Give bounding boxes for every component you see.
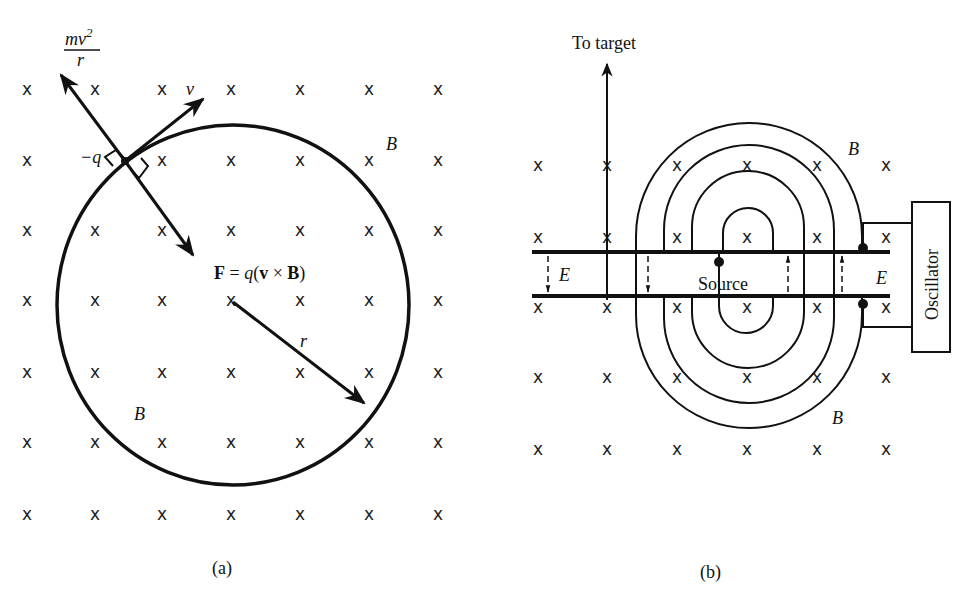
svg-text:x: x bbox=[742, 367, 752, 387]
svg-text:x: x bbox=[295, 79, 305, 99]
panel-b: xxxxxx xxxxxx xxxxxx xxxxxx xxxxxx bbox=[532, 33, 950, 583]
efield-label-right: E bbox=[875, 268, 887, 288]
svg-text:x: x bbox=[433, 504, 443, 524]
svg-text:x: x bbox=[602, 439, 612, 459]
svg-text:x: x bbox=[364, 220, 374, 240]
svg-text:x: x bbox=[157, 432, 167, 452]
svg-text:x: x bbox=[881, 367, 891, 387]
svg-text:x: x bbox=[742, 297, 752, 317]
svg-text:x: x bbox=[433, 150, 443, 170]
svg-text:x: x bbox=[672, 297, 682, 317]
target-label: To target bbox=[572, 33, 636, 53]
svg-text:x: x bbox=[157, 362, 167, 382]
svg-text:x: x bbox=[433, 220, 443, 240]
svg-text:x: x bbox=[295, 432, 305, 452]
svg-text:x: x bbox=[533, 155, 543, 175]
svg-text:x: x bbox=[157, 150, 167, 170]
field-label-b-bottom: B bbox=[134, 404, 145, 424]
lorentz-force-equation: F = q(v × B) bbox=[214, 263, 305, 284]
svg-text:x: x bbox=[672, 439, 682, 459]
svg-text:x: x bbox=[364, 290, 374, 310]
svg-text:x: x bbox=[157, 79, 167, 99]
svg-text:x: x bbox=[22, 220, 32, 240]
svg-text:x: x bbox=[226, 220, 236, 240]
velocity-label: v bbox=[186, 79, 194, 99]
svg-text:x: x bbox=[90, 432, 100, 452]
svg-text:x: x bbox=[364, 362, 374, 382]
svg-text:x: x bbox=[295, 220, 305, 240]
svg-text:x: x bbox=[533, 439, 543, 459]
svg-text:x: x bbox=[533, 367, 543, 387]
svg-text:x: x bbox=[90, 504, 100, 524]
svg-text:x: x bbox=[157, 220, 167, 240]
svg-text:x: x bbox=[364, 504, 374, 524]
svg-text:x: x bbox=[742, 439, 752, 459]
svg-text:x: x bbox=[433, 432, 443, 452]
svg-text:mv2: mv2 bbox=[65, 25, 93, 49]
svg-text:x: x bbox=[364, 432, 374, 452]
source-point bbox=[714, 257, 724, 267]
charge-particle bbox=[121, 157, 129, 165]
svg-text:x: x bbox=[533, 297, 543, 317]
svg-text:x: x bbox=[672, 227, 682, 247]
svg-text:x: x bbox=[364, 150, 374, 170]
svg-text:x: x bbox=[226, 150, 236, 170]
svg-text:x: x bbox=[22, 290, 32, 310]
svg-text:x: x bbox=[22, 79, 32, 99]
svg-text:x: x bbox=[22, 150, 32, 170]
svg-text:x: x bbox=[881, 155, 891, 175]
svg-text:x: x bbox=[295, 290, 305, 310]
svg-text:x: x bbox=[812, 155, 822, 175]
svg-text:x: x bbox=[881, 297, 891, 317]
svg-text:x: x bbox=[672, 155, 682, 175]
svg-text:x: x bbox=[433, 290, 443, 310]
svg-text:x: x bbox=[22, 362, 32, 382]
electric-field-arrows bbox=[548, 256, 842, 292]
source-label: Source bbox=[698, 274, 748, 294]
svg-text:x: x bbox=[226, 362, 236, 382]
svg-text:x: x bbox=[812, 227, 822, 247]
svg-text:x: x bbox=[742, 227, 752, 247]
field-label-b-bottom: B bbox=[832, 408, 843, 428]
radius-arrow bbox=[233, 302, 364, 403]
oscillator-label: Oscillator bbox=[922, 249, 942, 320]
caption-b: (b) bbox=[700, 562, 721, 583]
svg-text:x: x bbox=[90, 362, 100, 382]
svg-text:x: x bbox=[90, 290, 100, 310]
caption-a: (a) bbox=[212, 558, 232, 579]
centripetal-force-label: mv2 r bbox=[64, 25, 100, 70]
svg-text:x: x bbox=[226, 432, 236, 452]
svg-text:x: x bbox=[602, 367, 612, 387]
panel-a: xxxxxxx xxxxxx xxxxxxx xxxxxxx xxxxxxx x… bbox=[22, 25, 443, 579]
svg-text:x: x bbox=[90, 220, 100, 240]
svg-text:x: x bbox=[226, 290, 236, 310]
svg-text:x: x bbox=[157, 504, 167, 524]
field-label-b-top: B bbox=[386, 134, 397, 154]
svg-text:x: x bbox=[295, 150, 305, 170]
svg-text:x: x bbox=[295, 362, 305, 382]
svg-text:x: x bbox=[90, 79, 100, 99]
efield-label-left: E bbox=[558, 265, 570, 285]
svg-text:x: x bbox=[881, 439, 891, 459]
svg-text:x: x bbox=[533, 227, 543, 247]
svg-text:x: x bbox=[433, 362, 443, 382]
svg-text:x: x bbox=[295, 504, 305, 524]
svg-text:x: x bbox=[812, 297, 822, 317]
svg-text:x: x bbox=[812, 439, 822, 459]
svg-text:x: x bbox=[226, 504, 236, 524]
svg-text:x: x bbox=[364, 79, 374, 99]
svg-text:x: x bbox=[22, 432, 32, 452]
field-label-b-top: B bbox=[848, 139, 859, 159]
svg-text:x: x bbox=[157, 290, 167, 310]
magnetic-field-markers-a: xxxxxxx xxxxxx xxxxxxx xxxxxxx xxxxxxx x… bbox=[22, 79, 443, 524]
svg-text:x: x bbox=[22, 504, 32, 524]
radius-label: r bbox=[300, 331, 308, 351]
svg-text:x: x bbox=[433, 79, 443, 99]
diagram-canvas: xxxxxxx xxxxxx xxxxxxx xxxxxxx xxxxxxx x… bbox=[0, 0, 959, 600]
svg-text:x: x bbox=[226, 79, 236, 99]
charge-label: −q bbox=[80, 147, 101, 167]
svg-text:r: r bbox=[77, 50, 85, 70]
svg-text:x: x bbox=[881, 227, 891, 247]
